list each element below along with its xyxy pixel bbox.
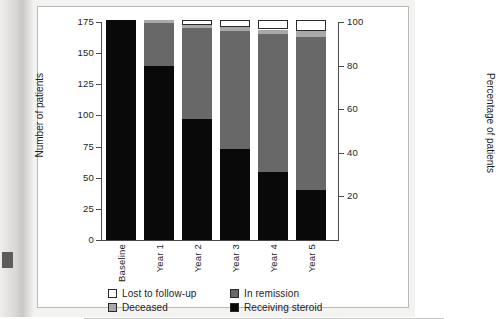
legend-item-label: In remission xyxy=(244,288,299,299)
y-tick-right xyxy=(339,22,344,23)
bar-year-3[interactable] xyxy=(220,22,250,240)
segment-in-remission xyxy=(296,37,326,190)
segment-lost-to-follow-up xyxy=(296,20,326,31)
y-tick-label-left: 25 xyxy=(60,204,94,213)
legend-swatch-icon xyxy=(230,303,239,312)
segment-lost-to-follow-up xyxy=(182,20,212,25)
y-tick-right xyxy=(339,66,344,67)
bar-year-4[interactable] xyxy=(258,22,288,240)
y-tick-label-left: 100 xyxy=(60,110,94,119)
y-tick-label-left: 0 xyxy=(60,235,94,244)
segment-deceased xyxy=(296,31,326,37)
y-tick-label-left: 150 xyxy=(60,48,94,57)
y-tick-right xyxy=(339,153,344,154)
legend-item-label: Deceased xyxy=(122,302,168,313)
y-axis-label-right: Percentage of patients xyxy=(376,73,496,173)
y-axis-right-line xyxy=(338,22,339,241)
y-tick-label-left: 50 xyxy=(60,173,94,182)
segment-in-remission xyxy=(144,23,174,65)
scan-edge-mark xyxy=(2,252,13,268)
x-axis-line xyxy=(101,240,339,241)
segment-receiving-steroid xyxy=(258,172,288,241)
legend-item[interactable]: Receiving steroid xyxy=(230,302,340,313)
y-tick-label-left: 75 xyxy=(60,142,94,151)
segment-deceased xyxy=(144,20,174,24)
segment-lost-to-follow-up xyxy=(258,20,288,30)
segment-receiving-steroid xyxy=(220,149,250,240)
x-tick-label: Baseline xyxy=(116,244,127,282)
x-tick-label: Year 5 xyxy=(306,244,317,272)
chart-legend: Lost to follow-upIn remissionDeceasedRec… xyxy=(108,288,338,313)
scan-edge-strip xyxy=(0,0,34,317)
bar-year-2[interactable] xyxy=(182,22,212,240)
segment-receiving-steroid xyxy=(296,190,326,240)
segment-in-remission xyxy=(220,31,250,149)
bar-year-1[interactable] xyxy=(144,22,174,240)
segment-receiving-steroid xyxy=(144,66,174,240)
legend-item-label: Receiving steroid xyxy=(244,302,322,313)
y-tick-label-right: 20 xyxy=(347,191,377,200)
x-tick-label: Year 3 xyxy=(230,244,241,272)
segment-deceased xyxy=(220,27,250,31)
legend-swatch-icon xyxy=(230,289,239,298)
segment-in-remission xyxy=(182,28,212,119)
legend-swatch-icon xyxy=(108,303,117,312)
bar-year-5[interactable] xyxy=(296,22,326,240)
legend-item[interactable]: Deceased xyxy=(108,302,230,313)
y-tick-left xyxy=(96,240,101,241)
segment-deceased xyxy=(182,25,212,29)
x-tick-label: Year 1 xyxy=(154,244,165,272)
y-tick-right xyxy=(339,109,344,110)
y-tick-label-left: 175 xyxy=(60,17,94,26)
segment-lost-to-follow-up xyxy=(220,20,250,27)
segment-receiving-steroid xyxy=(106,20,136,240)
y-tick-label-right: 40 xyxy=(347,148,377,157)
legend-item-label: Lost to follow-up xyxy=(122,288,197,299)
segment-deceased xyxy=(258,30,288,35)
segment-receiving-steroid xyxy=(182,119,212,240)
y-tick-right xyxy=(339,196,344,197)
chart-card: Number of patients Percentage of patient… xyxy=(37,6,409,308)
segment-in-remission xyxy=(258,34,288,171)
y-tick-label-right: 60 xyxy=(347,104,377,113)
legend-swatch-icon xyxy=(108,289,117,298)
y-tick-label-left: 125 xyxy=(60,79,94,88)
plot-area xyxy=(101,22,319,240)
y-tick-label-right: 80 xyxy=(347,61,377,70)
bar-baseline[interactable] xyxy=(106,22,136,240)
legend-item[interactable]: Lost to follow-up xyxy=(108,288,230,299)
x-tick-label: Year 2 xyxy=(192,244,203,272)
x-tick-label: Year 4 xyxy=(268,244,279,272)
legend-item[interactable]: In remission xyxy=(230,288,340,299)
y-tick-label-right: 100 xyxy=(347,17,377,26)
